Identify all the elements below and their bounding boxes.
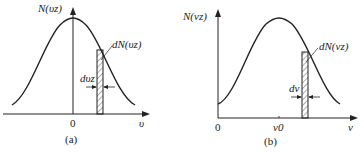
x-axis-label-b: ν: [348, 121, 353, 133]
y-axis-arrow-b: [215, 9, 221, 17]
panel-a: [3, 7, 150, 117]
strip-label-a: dN(υz): [112, 38, 142, 50]
strip-label-b: dN(νz): [319, 40, 348, 52]
y-axis-label-a: N(υz): [38, 2, 62, 14]
gaussian-curve-b: [218, 18, 340, 104]
hatched-strip-a: [97, 50, 103, 114]
panel-b: [215, 9, 358, 121]
x-axis-label-a: υ: [139, 117, 144, 129]
center-label-b: ν0: [273, 121, 283, 133]
distribution-diagrams: [0, 0, 364, 152]
y-axis-label-b: N(νz): [183, 10, 207, 22]
origin-label-a: 0: [70, 117, 76, 129]
y-axis-arrow-a: [70, 7, 76, 15]
hatched-strip-b: [302, 52, 308, 118]
caption-a: (a): [65, 133, 77, 145]
origin-label-b: 0: [215, 121, 221, 133]
width-label-a: dυz: [80, 72, 95, 84]
width-label-b: dν: [289, 82, 299, 94]
caption-b: (b): [264, 135, 277, 147]
